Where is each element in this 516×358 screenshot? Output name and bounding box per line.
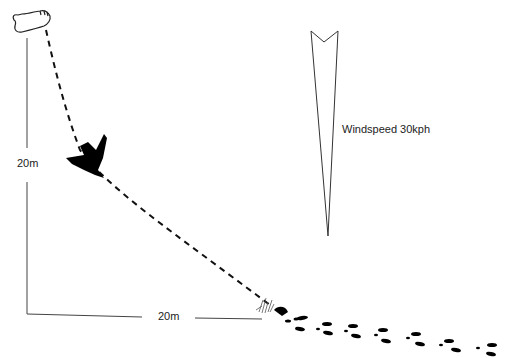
height-label: 20m bbox=[17, 157, 38, 169]
footprint-trail-icon bbox=[285, 315, 497, 357]
diagram-canvas bbox=[0, 0, 516, 358]
bird-icon bbox=[66, 134, 107, 178]
distance-label: 20m bbox=[158, 310, 179, 322]
wind-arrow-icon bbox=[311, 31, 338, 236]
distance-line-right bbox=[195, 318, 262, 319]
grass-landing-icon bbox=[256, 298, 274, 313]
distance-line-left bbox=[27, 314, 142, 317]
foot-icon bbox=[13, 11, 50, 32]
wind-speed-label: Windspeed 30kph bbox=[342, 123, 430, 135]
landing-mark bbox=[274, 307, 288, 316]
